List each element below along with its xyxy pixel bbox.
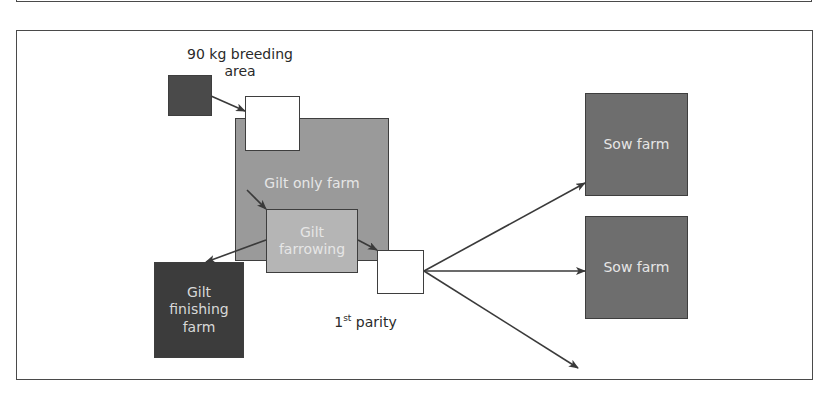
arrows-layer [0, 0, 828, 399]
arrow-gilt-only-to-farrowing [247, 190, 266, 209]
arrow-farrowing-to-finishing [206, 240, 266, 262]
arrow-breeding-to-entry [211, 96, 245, 111]
arrow-parity-to-unlabeled [424, 271, 578, 368]
arrow-parity-to-sow-farm-1 [424, 183, 585, 271]
arrow-farrowing-to-first-parity [358, 240, 377, 250]
